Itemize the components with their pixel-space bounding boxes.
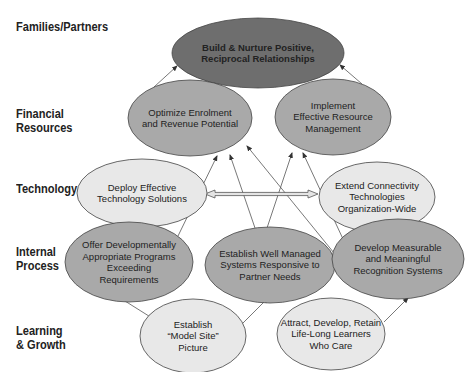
node-text-line: Management (305, 123, 361, 134)
node-text-line: Requirements (99, 274, 158, 285)
node-text-line: Develop Measurable (354, 242, 441, 253)
node-text-line: Who Care (310, 340, 353, 351)
node-deploy-technology: Deploy EffectiveTechnology Solutions (77, 159, 207, 227)
node-text-line: Exceeding (107, 262, 151, 273)
node-text-line: Organization-Wide (338, 203, 417, 214)
node-develop-recognition: Develop Measurableand MeaningfulRecognit… (332, 219, 464, 299)
node-text-line: Deploy Effective (108, 182, 176, 193)
node-text-line: Optimize Enrolment (148, 107, 232, 118)
node-text-line: Technologies (349, 191, 405, 202)
node-text-line: Partner Needs (239, 271, 301, 282)
arrow-attract-learners-to-develop-recognition (384, 298, 408, 322)
node-text-line: Establish Well Managed (219, 248, 321, 259)
node-text-line: and Meaningful (366, 253, 431, 264)
node-build-nurture: Build & Nurture Positive,Reciprocal Rela… (172, 18, 344, 88)
node-text-line: Implement (311, 100, 356, 111)
row-label-internal-process: InternalProcess (16, 245, 59, 273)
node-text-line: Attract, Develop, Retain (281, 317, 381, 328)
row-label-line: Learning (16, 324, 66, 338)
row-label-line: Financial (16, 107, 72, 121)
node-text-line: Effective Resource (293, 111, 373, 122)
node-attract-learners: Attract, Develop, RetainLife-Long Learne… (277, 298, 385, 370)
node-text-line: Technology Solutions (97, 193, 187, 204)
node-optimize-enrolment: Optimize Enrolmentand Revenue Potential (128, 80, 252, 156)
strategy-map-diagram: Build & Nurture Positive,Reciprocal Rela… (0, 0, 470, 372)
node-text-line: Extend Connectivity (335, 180, 419, 191)
row-label-financial-resources: FinancialResources (16, 107, 72, 135)
row-label-line: & Growth (16, 338, 66, 352)
node-model-site: Establish“Model Site”Picture (140, 299, 246, 372)
node-text-line: Offer Developmentally (82, 239, 176, 250)
arrow-establish-systems-to-implement-resource (267, 153, 292, 228)
row-label-learning-growth: Learning& Growth (16, 324, 66, 352)
row-label-technology: Technology (16, 182, 77, 196)
row-label-families-partners: Families/Partners (16, 20, 108, 34)
node-text-line: Recognition Systems (353, 265, 442, 276)
node-text-line: and Revenue Potential (142, 118, 238, 129)
node-text-line: Establish (174, 319, 213, 330)
node-text-line: Life-Long Learners (291, 328, 371, 339)
double-arrow (205, 190, 318, 198)
node-text-line: “Model Site” (167, 330, 218, 341)
node-text-line: Picture (178, 342, 208, 353)
row-label-line: Internal (16, 245, 59, 259)
row-label-line: Resources (16, 121, 72, 135)
node-implement-resource: ImplementEffective ResourceManagement (275, 79, 391, 155)
node-text-line: Appropriate Programs (83, 251, 176, 262)
node-text-line: Systems Responsive to (220, 259, 319, 270)
node-establish-systems: Establish Well ManagedSystems Responsive… (205, 227, 335, 303)
row-label-line: Families/Partners (16, 20, 108, 34)
row-label-line: Technology (16, 182, 77, 196)
node-text-line: Build & Nurture Positive, (202, 42, 314, 53)
double-arrow-icon (205, 190, 318, 198)
node-text-line: Reciprocal Relationships (201, 53, 315, 64)
row-label-line: Process (16, 259, 59, 273)
arrow-establish-systems-to-optimize-enrolment (230, 155, 255, 228)
node-offer-programs: Offer DevelopmentallyAppropriate Program… (65, 222, 193, 302)
